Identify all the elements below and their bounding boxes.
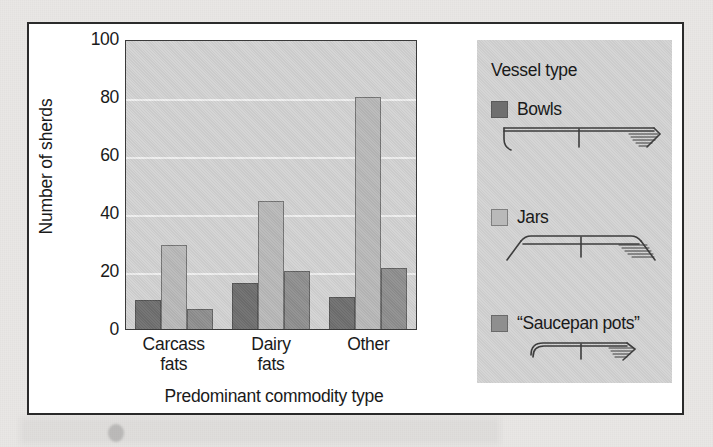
legend-title: Vessel type — [491, 60, 577, 81]
bars-layer — [126, 41, 416, 329]
saucepan-pot-profile-icon — [523, 339, 669, 373]
y-axis-tick-labels: 020406080100 — [73, 24, 119, 413]
y-axis-tick-label: 20 — [73, 263, 119, 281]
jar-profile-icon — [497, 233, 669, 271]
bar[interactable] — [329, 297, 355, 329]
y-axis-tick-label: 60 — [73, 147, 119, 165]
scan-smudge-mark — [108, 424, 124, 442]
bar[interactable] — [135, 300, 161, 329]
legend-swatch-bowls — [491, 101, 508, 118]
legend-entry-bowls[interactable]: Bowls — [491, 98, 669, 163]
figure-frame: Number of sherds 020406080100 Carcassfat… — [27, 22, 684, 415]
bar[interactable] — [161, 245, 187, 329]
bar-group — [232, 41, 310, 329]
legend-label-jars: Jars — [517, 207, 548, 228]
x-axis-tick-labels: CarcassfatsDairyfatsOther — [125, 334, 417, 374]
legend-label-saucepan-pots: “Saucepan pots” — [517, 313, 639, 334]
bar-chart: Number of sherds 020406080100 Carcassfat… — [29, 24, 469, 413]
legend-entry-saucepan-pots[interactable]: “Saucepan pots” — [491, 312, 669, 373]
bowl-profile-icon — [497, 125, 669, 163]
x-axis-tick-label: Dairyfats — [225, 334, 317, 374]
bar-group — [329, 41, 407, 329]
bar-group — [135, 41, 213, 329]
x-axis-tick-label: Carcassfats — [128, 334, 220, 374]
x-axis-title: Predominant commodity type — [89, 386, 459, 407]
y-axis-tick-label: 100 — [73, 31, 119, 49]
legend-entry-jars[interactable]: Jars — [491, 206, 669, 271]
legend-swatch-saucepan-pots — [491, 315, 508, 332]
y-axis-tick-label: 80 — [73, 89, 119, 107]
y-axis-title: Number of sherds — [36, 57, 57, 277]
x-axis-tick-label: Other — [322, 334, 414, 374]
y-axis-tick-label: 40 — [73, 205, 119, 223]
bar[interactable] — [284, 271, 310, 329]
scan-smudge-band — [20, 418, 500, 444]
bar[interactable] — [355, 97, 381, 329]
y-axis-tick-label: 0 — [73, 321, 119, 339]
legend-panel: Vessel type Bowls — [477, 40, 672, 383]
bar[interactable] — [187, 309, 213, 329]
legend-swatch-jars — [491, 209, 508, 226]
plot-area — [125, 40, 417, 330]
legend-label-bowls: Bowls — [517, 99, 562, 120]
bar[interactable] — [258, 201, 284, 329]
bar[interactable] — [381, 268, 407, 329]
bar[interactable] — [232, 283, 258, 329]
